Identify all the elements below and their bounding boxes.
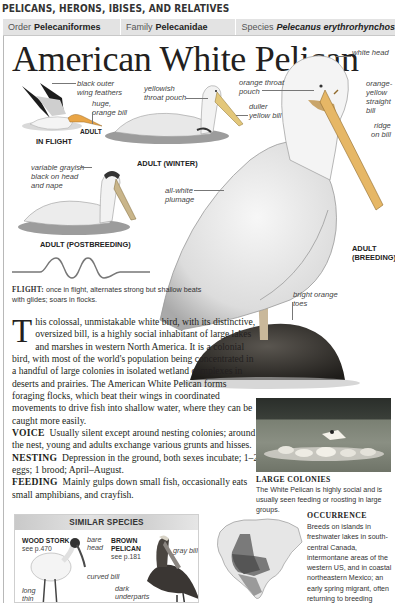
callout-curved-bill: curved bill [87, 573, 119, 581]
description: This colossal, unmistakable white bird, … [12, 316, 260, 501]
dropcap: T [12, 318, 32, 344]
label-adult-breeding: ADULT (BREEDING) [352, 244, 395, 262]
callout-gray-bill: gray bill [173, 547, 198, 555]
voice-paragraph: VOICE Usually silent except around nesti… [12, 427, 260, 452]
callout-white-head: white head [352, 48, 389, 57]
callout-ridge-on-bill: ridge on bill [371, 121, 391, 139]
label-in-flight: IN FLIGHT [36, 137, 72, 146]
leader-line [194, 190, 224, 191]
colony-caption-title: LARGE COLONIES [256, 475, 331, 484]
voice-label: VOICE [12, 427, 45, 438]
label-adult-flight: ADULT [80, 127, 102, 136]
callout-bright-orange-toes: bright orange toes [293, 290, 338, 308]
occurrence-title: OCCURRENCE [307, 511, 367, 520]
colony-photo [256, 398, 391, 472]
leader-line [262, 90, 314, 91]
flight-label: FLIGHT: [12, 286, 44, 294]
leader-line [80, 167, 92, 168]
order-value: Pelecaniformes [34, 22, 101, 32]
callout-long-thin-legs: long thin legs [22, 587, 36, 603]
family-label: Family [126, 22, 153, 32]
leader-line [292, 302, 293, 320]
intro-paragraph: This colossal, unmistakable white bird, … [12, 316, 260, 427]
callout-orange-yellow-straight-bill: orange- yellow straight bill [366, 79, 392, 115]
similar-species-panel: SIMILAR SPECIES WOOD STORK see p.470 bar… [14, 514, 199, 603]
order-label: Order [8, 22, 31, 32]
species-label: Species [241, 22, 273, 32]
taxon-family: Family Pelecanidae [121, 19, 236, 35]
family-value: Pelecanidae [156, 22, 208, 32]
brown-pelican-illustration [143, 533, 199, 603]
wood-stork-name: WOOD STORK [22, 537, 69, 545]
family-header: PELICANS, HERONS, IBISES, AND RELATIVES [2, 2, 229, 14]
taxon-order: Order Pelecaniformes [3, 19, 121, 35]
taxonomy-bar: Order Pelecaniformes Family Pelecanidae … [3, 19, 395, 36]
species-value: Pelecanus erythrorhynchos [276, 22, 395, 32]
intro-text: his colossal, unmistakable white bird, w… [12, 316, 255, 426]
similar-species-heading: SIMILAR SPECIES [15, 515, 198, 530]
callout-all-white-plumage: all-white plumage [165, 186, 194, 204]
voice-text: Usually silent except around nesting col… [12, 427, 255, 450]
nesting-paragraph: NESTING Depression in the ground, both s… [12, 452, 260, 477]
nesting-label: NESTING [12, 452, 57, 463]
leader-line [336, 56, 351, 57]
leader-line [92, 112, 93, 124]
taxon-species: Species Pelecanus erythrorhynchos [236, 19, 395, 35]
occurrence-text: Breeds on islands in freshwater lakes in… [307, 522, 395, 603]
colony-birds-image [256, 398, 391, 472]
leader-line [52, 83, 76, 84]
callout-bare-head: bare head [87, 536, 103, 552]
feeding-label: FEEDING [12, 476, 58, 487]
leader-line [236, 115, 248, 116]
label-adult-postbreeding: ADULT (POSTBREEDING) [40, 240, 131, 249]
brown-pelican-page-link[interactable]: see p.181 [111, 553, 141, 560]
callout-duller-yellow-bill: duller yellow bill [249, 102, 282, 120]
callout-variable-grayish-black: variable grayish black on head and nape [31, 163, 84, 190]
flight-pattern-icon [12, 256, 150, 280]
callout-orange-throat-pouch: orange throat pouch [239, 78, 284, 96]
brown-pelican-name: BROWN PELICAN [111, 537, 141, 553]
feeding-paragraph: FEEDING Mainly gulps down small fish, oc… [12, 476, 260, 501]
range-map [210, 512, 305, 603]
wood-stork-page-link[interactable]: see p.470 [22, 545, 52, 552]
flight-caption: FLIGHT: once in flight, alternates stron… [12, 285, 202, 305]
callout-dark-underparts: dark underparts [115, 585, 149, 601]
